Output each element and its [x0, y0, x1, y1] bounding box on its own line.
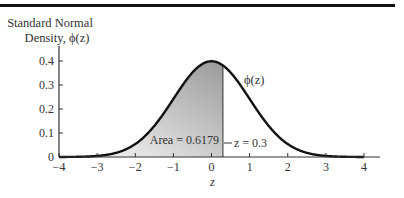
- x-tick-label: 2: [285, 160, 291, 174]
- y-tick-label: 0.3: [39, 78, 54, 92]
- normal-density-chart: Standard Normal Density, ϕ(z) −4−3−2−101…: [0, 0, 404, 198]
- cutoff-annotation: z = 0.3: [234, 136, 267, 150]
- x-tick-label: −4: [53, 160, 66, 174]
- y-tick-label: 0.1: [39, 126, 54, 140]
- y-tick-label: 0.4: [39, 54, 54, 68]
- x-tick-label: 1: [247, 160, 253, 174]
- y-tick-label: 0.2: [39, 102, 54, 116]
- y-axis-title-line2: Density, ϕ(z): [25, 31, 90, 45]
- x-tick-label: −3: [91, 160, 104, 174]
- y-axis-title-line1: Standard Normal: [7, 16, 93, 30]
- x-tick-label: −1: [167, 160, 180, 174]
- x-tick-label: 3: [323, 160, 329, 174]
- top-rule: [0, 4, 395, 7]
- x-tick-label: 0: [209, 160, 215, 174]
- area-annotation: Area = 0.6179: [150, 133, 219, 147]
- x-axis-title: z: [209, 175, 215, 189]
- x-tick-label: 4: [361, 160, 367, 174]
- y-tick-label: 0: [48, 150, 54, 164]
- curve-label: ϕ(z): [244, 73, 264, 87]
- x-tick-label: −2: [129, 160, 142, 174]
